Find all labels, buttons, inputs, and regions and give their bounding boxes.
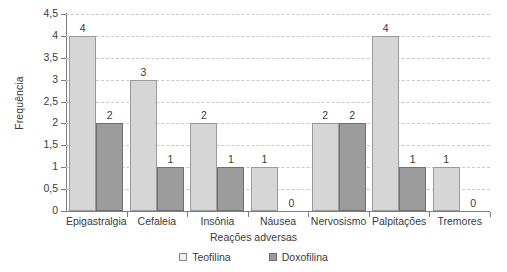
legend-label: Doxofilina xyxy=(282,252,328,263)
bar-teofilina-0 xyxy=(69,36,96,211)
value-label: 1 xyxy=(410,153,416,165)
x-axis-separator-tick xyxy=(369,212,370,217)
value-label: 2 xyxy=(349,109,355,121)
value-label: 1 xyxy=(443,153,449,165)
value-label: 0 xyxy=(470,197,476,209)
bar-teofilina-4 xyxy=(312,123,339,211)
x-axis-separator-tick xyxy=(248,212,249,217)
x-axis-line xyxy=(66,211,490,212)
value-label: 1 xyxy=(228,153,234,165)
bar-chart: Frequência 00,511,522,533,544,5 42312110… xyxy=(0,0,507,272)
legend-swatch-icon xyxy=(269,253,277,261)
bar-doxofilina-5 xyxy=(399,167,426,211)
x-axis-category-label: Epigastralgia xyxy=(66,215,127,227)
value-label: 1 xyxy=(262,153,268,165)
value-label: 0 xyxy=(289,197,295,209)
bars-group xyxy=(66,14,490,211)
bar-teofilina-6 xyxy=(433,167,460,211)
x-axis-separator-tick xyxy=(127,212,128,217)
bar-teofilina-1 xyxy=(130,80,157,211)
y-axis-tick xyxy=(61,211,66,212)
value-label: 2 xyxy=(322,109,328,121)
x-axis-category-label: Cefaleia xyxy=(138,215,177,227)
x-axis-separator-tick xyxy=(187,212,188,217)
value-label: 3 xyxy=(140,66,146,78)
x-axis-category-label: Palpitações xyxy=(372,215,426,227)
value-label: 4 xyxy=(80,22,86,34)
legend-label: Teofilina xyxy=(192,252,231,263)
value-label: 2 xyxy=(107,109,113,121)
bar-teofilina-2 xyxy=(190,123,217,211)
bar-doxofilina-1 xyxy=(157,167,184,211)
legend-swatch-icon xyxy=(179,253,187,261)
bar-teofilina-3 xyxy=(251,167,278,211)
legend-item-doxofilina[interactable]: Doxofilina xyxy=(269,252,328,263)
x-axis-separator-tick xyxy=(429,212,430,217)
chart-legend: TeofilinaDoxofilina xyxy=(0,252,507,263)
x-axis-category-label: Tremores xyxy=(437,215,482,227)
bar-doxofilina-2 xyxy=(217,167,244,211)
x-axis-category-label: Insônia xyxy=(200,215,234,227)
legend-item-teofilina[interactable]: Teofilina xyxy=(179,252,231,263)
x-axis-separator-tick xyxy=(308,212,309,217)
bar-teofilina-5 xyxy=(372,36,399,211)
x-axis-category-label: Náusea xyxy=(260,215,296,227)
x-axis-separator-tick xyxy=(490,212,491,217)
value-label: 1 xyxy=(167,153,173,165)
value-label: 4 xyxy=(383,22,389,34)
x-axis-title: Reações adversas xyxy=(0,231,507,243)
bar-doxofilina-0 xyxy=(96,123,123,211)
value-label: 2 xyxy=(201,109,207,121)
bar-doxofilina-4 xyxy=(339,123,366,211)
x-axis-category-label: Nervosismo xyxy=(311,215,366,227)
